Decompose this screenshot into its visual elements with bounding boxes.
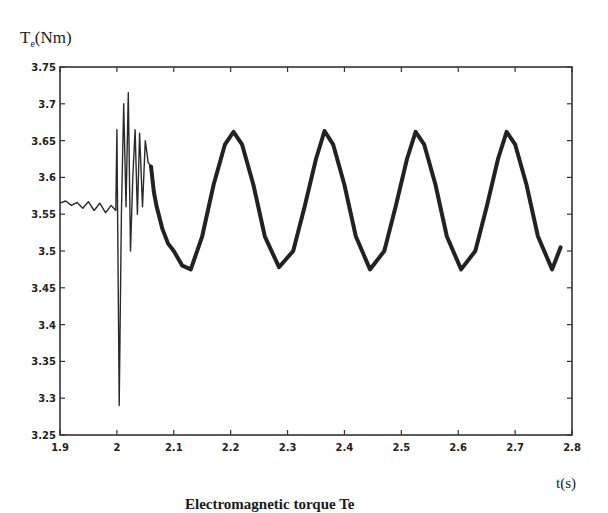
x-tick-label: 2.2 <box>222 442 240 453</box>
series-line-steady <box>151 131 561 269</box>
y-tick-label: 3.4 <box>38 320 56 331</box>
y-axis-ticks: 3.253.33.353.43.453.53.553.63.653.73.75 <box>31 62 572 441</box>
x-tick-label: 2.1 <box>165 442 183 453</box>
series-line-transient <box>60 93 151 406</box>
x-tick-label: 1.9 <box>51 442 69 453</box>
y-tick-label: 3.45 <box>31 283 56 294</box>
x-tick-label: 2.4 <box>336 442 354 453</box>
x-tick-label: 2.3 <box>279 442 297 453</box>
x-axis-label: t(s) <box>556 475 576 492</box>
x-tick-label: 2.5 <box>392 442 410 453</box>
y-tick-label: 3.3 <box>38 393 56 404</box>
y-tick-label: 3.35 <box>31 356 56 367</box>
y-tick-label: 3.5 <box>38 246 56 257</box>
x-axis-ticks: 1.922.12.22.32.42.52.62.72.8 <box>51 67 581 453</box>
y-tick-label: 3.65 <box>31 136 56 147</box>
y-tick-label: 3.75 <box>31 62 56 73</box>
figure-caption: Electromagnetic torque Te <box>185 496 354 513</box>
plot-frame <box>60 67 572 435</box>
y-tick-label: 3.6 <box>38 172 56 183</box>
x-tick-label: 2.7 <box>506 442 524 453</box>
y-tick-label: 3.7 <box>38 99 56 110</box>
x-tick-label: 2.6 <box>449 442 467 453</box>
y-tick-label: 3.55 <box>31 209 56 220</box>
y-tick-label: 3.25 <box>31 430 56 441</box>
x-tick-label: 2.8 <box>563 442 581 453</box>
x-tick-label: 2 <box>113 442 120 453</box>
torque-series <box>60 93 561 406</box>
